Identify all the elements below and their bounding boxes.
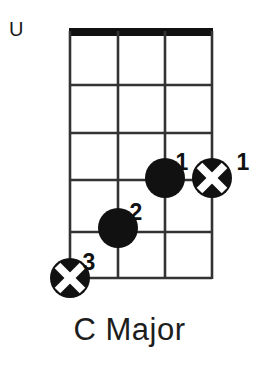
string-lines-group	[70, 31, 212, 279]
finger-number-label-3: 2	[130, 199, 143, 225]
chord-diagram-sheet: U	[0, 0, 259, 373]
chord-name-title: C Major	[0, 312, 259, 348]
finger-number-label-4: 3	[83, 249, 96, 275]
finger-marker-cross-1[interactable]	[192, 158, 232, 198]
finger-number-label-1: 1	[176, 149, 189, 175]
finger-number-label-2: 1	[237, 149, 250, 175]
fretboard-diagram: 1 1 2 3	[0, 0, 259, 300]
